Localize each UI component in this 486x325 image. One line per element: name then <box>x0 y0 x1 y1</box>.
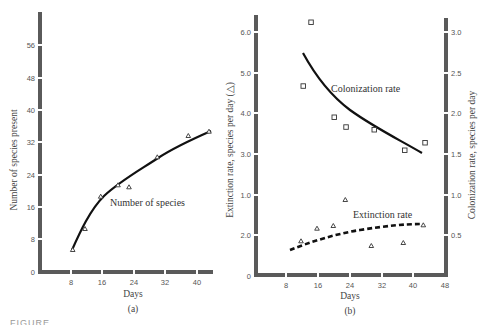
chart-b-panel-label: (b) <box>344 306 355 317</box>
triangle-marker <box>331 224 336 228</box>
extinction-annotation: Extinction rate <box>353 209 413 220</box>
extinction-points <box>299 198 426 248</box>
extinction-fit-curve <box>290 224 421 250</box>
y-tick: 40 <box>27 106 35 115</box>
y-tick: 48 <box>27 74 35 83</box>
square-marker <box>372 128 377 133</box>
x-tick: 40 <box>409 281 417 290</box>
x-tick: 32 <box>378 281 386 290</box>
y-tick: 8 <box>31 235 35 244</box>
y-tick: 16 <box>27 203 35 212</box>
y-tick: 56 <box>27 41 35 50</box>
square-marker <box>423 141 428 146</box>
square-marker <box>301 84 306 89</box>
y-tick: 32 <box>27 138 35 147</box>
square-marker <box>309 20 314 25</box>
chart-b-left-y-axis <box>254 15 258 277</box>
y-tick: 2.0 <box>451 109 461 118</box>
chart-a-x-axis <box>38 270 213 274</box>
triangle-marker <box>421 223 426 227</box>
triangle-marker <box>207 129 212 133</box>
triangle-marker <box>155 155 160 159</box>
figure-caption-stub: FIGURE <box>10 318 50 325</box>
colonization-annotation: Colonization rate <box>331 83 401 94</box>
y-tick: 1.0 <box>451 191 461 200</box>
y-tick: 0 <box>247 272 251 281</box>
chart-a-series-annotation: Number of species <box>110 197 185 208</box>
y-tick: 5.0 <box>241 69 251 78</box>
x-tick: 48 <box>441 281 449 290</box>
x-tick: 24 <box>346 281 354 290</box>
figure: 0 8 16 24 32 40 48 56 8 16 24 32 40 Days… <box>0 0 486 325</box>
chart-b-x-label: Days <box>340 291 360 301</box>
chart-b-x-tick-labels: 8 16 24 32 40 48 <box>284 281 449 290</box>
x-tick: 16 <box>314 281 322 290</box>
y-tick: 3.0 <box>241 150 251 159</box>
y-tick: 1.5 <box>451 150 461 159</box>
y-tick: 2.0 <box>241 231 251 240</box>
x-tick: 24 <box>130 278 138 287</box>
chart-b: 0 2.0 1.0 3.0 4.0 5.0 6.0 0.5 1.0 1.5 2.… <box>225 15 477 317</box>
triangle-marker <box>186 134 191 138</box>
x-tick: 16 <box>98 278 106 287</box>
chart-a-y-label: Number of species present <box>9 109 19 210</box>
y-tick: 0.5 <box>451 231 461 240</box>
triangle-marker <box>70 248 75 252</box>
y-tick: 2.5 <box>451 69 461 78</box>
chart-a-x-tick-labels: 8 16 24 32 40 <box>69 278 201 287</box>
x-tick: 8 <box>284 281 288 290</box>
triangle-marker <box>315 226 320 230</box>
y-tick: 0 <box>31 268 35 277</box>
x-tick: 32 <box>161 278 169 287</box>
chart-b-right-y-axis <box>444 18 448 277</box>
y-tick: 3.0 <box>451 28 461 37</box>
triangle-marker <box>343 198 348 202</box>
y-tick: 6.0 <box>241 28 251 37</box>
chart-a: 0 8 16 24 32 40 48 56 8 16 24 32 40 Days… <box>9 12 213 315</box>
chart-a-points <box>70 129 211 251</box>
x-tick: 8 <box>69 278 73 287</box>
chart-a-fit-curve <box>72 131 211 250</box>
y-tick: 24 <box>27 171 35 180</box>
chart-a-panel-label: (a) <box>128 304 139 315</box>
triangle-marker <box>299 239 304 243</box>
triangle-marker <box>98 194 103 198</box>
chart-b-right-y-label: Colonization rate, species per day <box>467 91 477 220</box>
y-tick: 4.0 <box>241 109 251 118</box>
triangle-marker <box>401 241 406 245</box>
triangle-marker <box>369 244 374 248</box>
y-tick: 1.0 <box>241 191 251 200</box>
chart-a-y-tick-labels: 0 8 16 24 32 40 48 56 <box>27 41 35 277</box>
square-marker <box>403 148 408 153</box>
colonization-fit-curve <box>303 53 422 153</box>
x-tick: 40 <box>193 278 201 287</box>
chart-b-left-y-label: Extinction rate, species per day (△) <box>225 82 236 218</box>
square-marker <box>344 125 349 130</box>
triangle-marker <box>127 185 132 189</box>
chart-a-x-label: Days <box>123 289 143 299</box>
square-marker <box>332 115 337 120</box>
chart-b-right-tick-labels: 0.5 1.0 1.5 2.0 2.5 3.0 <box>451 28 461 240</box>
chart-b-left-tick-labels: 0 2.0 1.0 3.0 4.0 5.0 6.0 <box>241 28 251 281</box>
